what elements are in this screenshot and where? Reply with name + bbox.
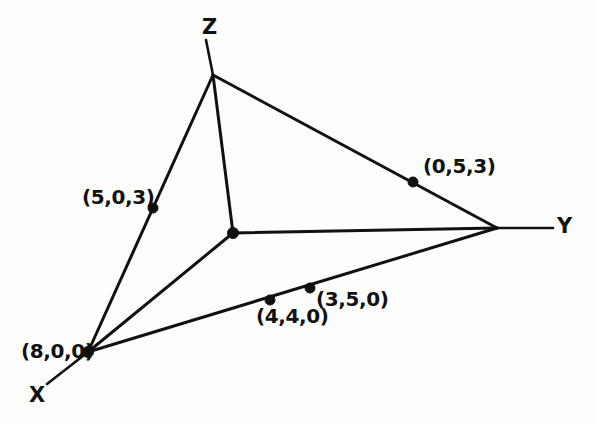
origin-dot (228, 228, 239, 239)
label-0-5-3: (0,5,3) (423, 156, 495, 176)
point-0-5-3-dot (408, 177, 418, 187)
edge-origin-to-z (213, 75, 233, 233)
label-5-0-3: (5,0,3) (82, 187, 154, 207)
axis-label-x: X (29, 385, 45, 406)
axis-label-y: Y (557, 216, 572, 237)
axis-label-z: Z (202, 17, 217, 38)
label-3-5-0: (3,5,0) (316, 289, 388, 309)
edge-origin-to-x (88, 233, 233, 352)
edge-z-to-x (88, 75, 213, 352)
z-axis-line (206, 40, 213, 75)
edge-origin-to-y (233, 228, 497, 233)
edge-z-to-y (213, 75, 497, 228)
edge-x-to-y (88, 228, 497, 352)
label-8-0-0: (8,0,0) (21, 341, 93, 361)
figure-canvas: X Y Z (8,0,0) (5,0,3) (0,5,3) (4,4,0) (3… (0, 0, 596, 425)
point-3-5-0-dot (305, 283, 315, 293)
axis-lines (47, 40, 553, 384)
